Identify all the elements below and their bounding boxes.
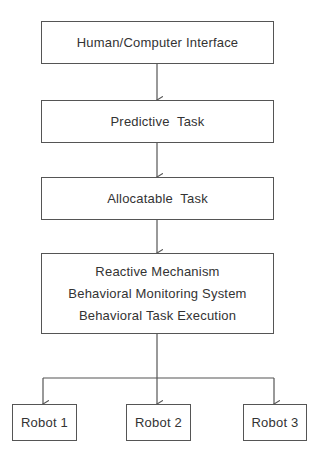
node-line-execution: Behavioral Task Execution [79,305,236,327]
node-label: Robot 3 [252,412,299,434]
node-label: Predictive Task [111,111,205,133]
node-predictive-task: Predictive Task [41,100,274,143]
node-behavior-layer: Reactive Mechanism Behavioral Monitoring… [41,253,274,334]
node-line-monitoring: Behavioral Monitoring System [68,283,246,305]
node-robot-3: Robot 3 [243,404,307,441]
node-label: Allocatable Task [107,188,208,210]
node-label: Human/Computer Interface [77,32,239,54]
node-human-computer-interface: Human/Computer Interface [41,21,274,64]
connector-lines [0,0,323,466]
node-robot-2: Robot 2 [126,404,191,441]
node-robot-1: Robot 1 [12,404,77,441]
node-label: Robot 1 [21,412,68,434]
node-label: Robot 2 [135,412,182,434]
node-line-reactive: Reactive Mechanism [95,261,219,283]
node-allocatable-task: Allocatable Task [41,177,274,220]
